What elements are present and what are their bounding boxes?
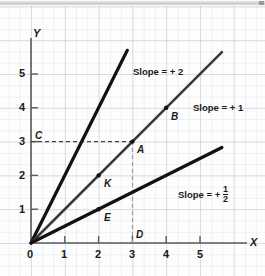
- figure-root: Y X 0 1 2 3 4 5 1 2 3 4 5 A B K E C D Sl…: [0, 0, 265, 276]
- line-slope-1: [31, 52, 222, 243]
- line-slope-2: [31, 50, 127, 243]
- point-label-K: K: [104, 179, 111, 189]
- point-label-A: A: [137, 145, 144, 155]
- plot-svg: [0, 6, 265, 276]
- x-axis-label: X: [250, 237, 257, 248]
- point-label-B: B: [171, 112, 178, 122]
- y-tick-label-3: 3: [19, 136, 25, 147]
- slope-annotation-half: Slope = + 1 2: [178, 185, 228, 204]
- slope-annotation-1: Slope = + 1: [193, 103, 243, 113]
- slope-annotation-2: Slope = + 2: [133, 67, 183, 77]
- point-label-E: E: [104, 213, 111, 223]
- guide-label-C: C: [35, 131, 42, 141]
- point-A-marker: [130, 139, 134, 143]
- x-tick-label-1: 1: [61, 249, 67, 260]
- point-E-marker: [96, 207, 100, 211]
- x-tick-label-3: 3: [129, 249, 135, 260]
- guide-label-D: D: [136, 230, 143, 240]
- coordinate-plot: Y X 0 1 2 3 4 5 1 2 3 4 5 A B K E C D Sl…: [0, 6, 265, 276]
- scrollbar-thumb[interactable]: [259, 1, 264, 5]
- x-tick-label-4: 4: [163, 249, 169, 260]
- y-tick-label-5: 5: [19, 68, 25, 79]
- y-tick-label-1: 1: [19, 204, 25, 215]
- x-tick-label-0: 0: [27, 249, 33, 260]
- point-B-marker: [164, 106, 168, 110]
- point-K-marker: [96, 173, 100, 177]
- x-tick-label-5: 5: [197, 249, 203, 260]
- fraction-one-half: 1 2: [223, 185, 228, 204]
- x-tick-label-2: 2: [95, 249, 101, 260]
- y-tick-label-4: 4: [19, 102, 25, 113]
- y-tick-label-2: 2: [19, 170, 25, 181]
- slope-annotation-half-text: Slope = +: [178, 189, 220, 200]
- y-axis-label: Y: [33, 28, 40, 39]
- fraction-numerator: 1: [223, 185, 228, 194]
- fraction-denominator: 2: [223, 194, 228, 204]
